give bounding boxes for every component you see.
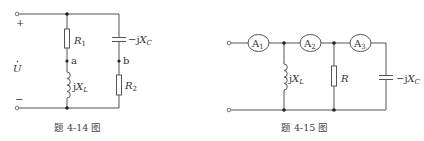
junction-dot	[282, 41, 286, 45]
node-a-label: a	[71, 55, 77, 66]
inductor-coil-icon	[284, 64, 287, 90]
terminal-minus	[15, 106, 19, 110]
terminal-plus	[15, 12, 19, 16]
voltage-symbol: U	[13, 63, 22, 74]
figure-4-15: A1 A2 A3 jXL R −	[227, 35, 420, 134]
xc-label: −jXC	[128, 34, 153, 47]
xl-label: jXL	[288, 73, 304, 86]
r1-label: R1	[73, 35, 86, 48]
resistor-r	[332, 66, 337, 86]
junction-dot	[282, 108, 286, 112]
source-voltage-label: U	[13, 61, 22, 74]
xl-label: jXL	[72, 81, 88, 94]
junction-dot	[332, 108, 336, 112]
phasor-dot	[17, 61, 18, 62]
r2-label: R2	[124, 80, 137, 93]
r-label: R	[340, 73, 349, 84]
minus-sign: −	[15, 94, 23, 105]
inductor-coil-icon	[67, 72, 70, 98]
circuit-diagrams: + − U R1 a jXL −jXC b R2 题 4-14 图 A1 A2	[0, 0, 424, 141]
figure-4-14: + − U R1 a jXL −jXC b R2 题 4-14 图	[13, 12, 153, 133]
node-b-dot	[117, 59, 120, 62]
xc-label: −jXC	[396, 73, 421, 86]
plus-sign: +	[16, 17, 24, 28]
ammeter-a2: A2	[300, 35, 321, 52]
figure-caption: 题 4-15 图	[281, 122, 328, 133]
node-b-label: b	[123, 55, 129, 66]
junction-dot	[65, 106, 69, 110]
ammeter-a1: A1	[248, 35, 269, 52]
resistor-r1	[65, 29, 70, 48]
junction-dot	[65, 12, 69, 16]
ammeter-a3: A3	[350, 35, 371, 52]
resistor-r2	[117, 75, 122, 95]
input-terminal-bottom	[227, 108, 231, 112]
input-terminal-top	[227, 41, 231, 45]
junction-dot	[332, 41, 336, 45]
node-a-dot	[65, 59, 68, 62]
figure-caption: 题 4-14 图	[54, 122, 101, 133]
